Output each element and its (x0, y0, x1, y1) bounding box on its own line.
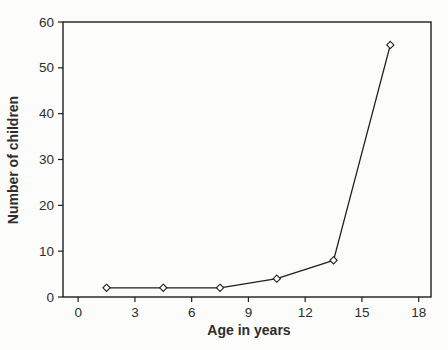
plot-frame (63, 22, 431, 297)
x-tick-label: 15 (354, 305, 369, 320)
series-line (107, 45, 391, 288)
x-tick-label: 6 (188, 305, 196, 320)
y-axis-label: Number of children (5, 96, 21, 224)
x-tick-label: 3 (131, 305, 139, 320)
frequency-polygon-figure: 0369121518 0102030405060 Age in years Nu… (0, 0, 448, 350)
y-tick-label: 50 (39, 60, 54, 75)
data-series (103, 41, 394, 291)
x-axis-ticks: 0369121518 (74, 297, 426, 320)
y-tick-label: 30 (39, 152, 54, 167)
y-tick-label: 40 (39, 106, 54, 121)
x-tick-label: 9 (245, 305, 253, 320)
y-axis-ticks: 0102030405060 (39, 15, 63, 305)
x-tick-label: 0 (74, 305, 82, 320)
diamond-marker (160, 284, 167, 291)
plot-border (63, 22, 431, 297)
y-tick-label: 0 (46, 290, 54, 305)
x-axis-label: Age in years (207, 322, 290, 338)
diamond-marker (387, 41, 394, 48)
diamond-marker (216, 284, 223, 291)
x-tick-label: 12 (298, 305, 313, 320)
y-tick-label: 10 (39, 244, 54, 259)
diamond-marker (330, 257, 337, 264)
diamond-marker (103, 284, 110, 291)
diamond-marker (273, 275, 280, 282)
x-tick-label: 18 (411, 305, 426, 320)
y-tick-label: 20 (39, 198, 54, 213)
chart-canvas: 0369121518 0102030405060 Age in years Nu… (0, 0, 448, 350)
y-tick-label: 60 (39, 15, 54, 30)
